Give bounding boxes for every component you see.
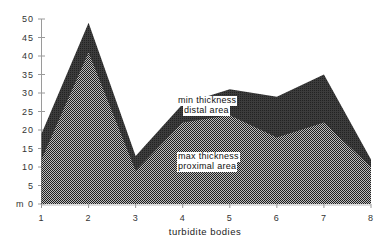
y-axis: m 05101520253035404550	[16, 14, 45, 209]
area-chart: m 05101520253035404550 12345678 turbidit…	[0, 0, 390, 243]
x-tick-label: 5	[227, 213, 233, 223]
y-tick-label: 15	[22, 144, 34, 154]
x-tick-label: 1	[38, 213, 44, 223]
area-series-1	[42, 52, 372, 204]
y-tick-label: 5	[28, 181, 34, 191]
y-tick-label: 50	[22, 14, 34, 24]
x-axis: 12345678	[38, 204, 374, 223]
x-tick-label: 3	[133, 213, 139, 223]
x-tick-label: 4	[180, 213, 186, 223]
y-tick-label: m 0	[16, 199, 34, 209]
legend-distal-area-line2: distal area	[183, 106, 230, 116]
x-tick-label: 8	[368, 213, 374, 223]
y-tick-label: 20	[22, 125, 34, 135]
y-tick-label: 35	[22, 70, 34, 80]
x-tick-label: 7	[321, 213, 327, 223]
y-tick-label: 10	[22, 162, 34, 172]
x-tick-label: 6	[274, 213, 280, 223]
legend-proximal-area-line2: proximal area	[177, 162, 237, 172]
x-axis-title: turbidite bodies	[169, 226, 241, 237]
y-tick-label: 25	[22, 107, 34, 117]
y-tick-label: 30	[22, 88, 34, 98]
y-tick-label: 40	[22, 51, 34, 61]
x-tick-label: 2	[86, 213, 92, 223]
y-tick-label: 45	[22, 33, 34, 43]
